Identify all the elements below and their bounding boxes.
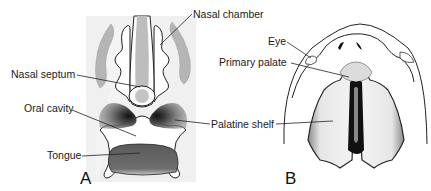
panel-letter-b: B <box>285 170 296 187</box>
label-palatine-shelf: Palatine shelf <box>211 119 274 130</box>
panel-a-artwork <box>72 14 210 182</box>
panel-letter-a: A <box>80 170 91 187</box>
panel-b-artwork <box>276 24 427 168</box>
label-primary-palate: Primary palate <box>219 57 287 68</box>
label-nasal-septum: Nasal septum <box>11 69 75 80</box>
label-tongue: Tongue <box>47 150 81 161</box>
label-nasal-chamber: Nasal chamber <box>193 9 264 20</box>
diagram-artwork <box>0 0 431 191</box>
label-oral-cavity: Oral cavity <box>24 103 74 114</box>
label-eye: Eye <box>268 36 286 47</box>
palate-development-figure: Nasal chamber Nasal septum Oral cavity P… <box>0 0 431 191</box>
